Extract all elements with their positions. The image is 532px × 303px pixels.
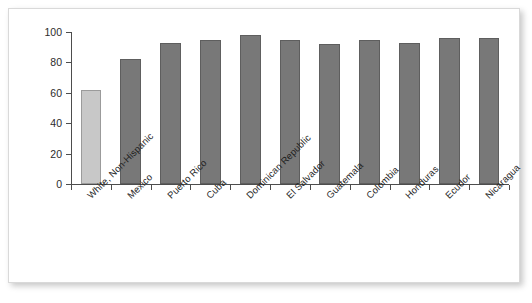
y-axis-line [71,32,72,184]
bar [81,90,102,184]
x-axis-tick [429,185,430,190]
bar [439,38,460,184]
y-axis-tick-label: 20 [9,149,62,159]
y-axis-tick-label: 60 [9,88,62,98]
bar [359,40,380,184]
bar-chart-plot-area: 020406080100 White, Non-HispanicMexicoPu… [9,9,521,284]
x-axis-tick [230,185,231,190]
y-axis-tick [66,123,71,124]
x-axis-tick [469,185,470,190]
y-axis-tick [66,32,71,33]
x-axis-tick [350,185,351,190]
chart-card: 020406080100 White, Non-HispanicMexicoPu… [8,8,520,283]
y-axis-tick-label: 100 [9,27,62,37]
bar [399,43,420,184]
x-axis-tick [270,185,271,190]
x-axis-tick [509,185,510,190]
x-axis-tick [310,185,311,190]
x-axis-tick [151,185,152,190]
x-axis-tick [190,185,191,190]
y-axis-tick [66,62,71,63]
y-axis-tick-label: 40 [9,118,62,128]
y-axis-tick-label: 0 [9,179,62,189]
y-axis-tick [66,154,71,155]
bar [479,38,500,184]
bar [240,35,261,184]
bar [160,43,181,184]
x-axis-tick [71,185,72,190]
y-axis-tick-label: 80 [9,57,62,67]
x-axis-tick [111,185,112,190]
x-axis-tick [390,185,391,190]
y-axis-tick [66,93,71,94]
